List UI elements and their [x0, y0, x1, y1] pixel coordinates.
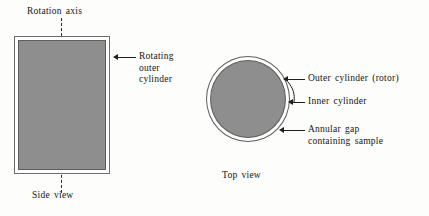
leader-line-rotating-outer-cylinder: [118, 57, 136, 58]
annular-gap-label: Annular gap containing sample: [308, 124, 383, 147]
inner-cylinder-label: Inner cylinder: [308, 96, 367, 108]
side-view-sample-fill: [18, 40, 106, 170]
top-view-caption: Top view: [222, 170, 261, 182]
leader-line-outer-cylinder: [288, 79, 305, 80]
outer-cylinder-rotor-label: Outer cylinder (rotor): [308, 73, 399, 85]
top-view-inner-cylinder: [210, 60, 286, 138]
rotating-outer-cylinder-label: Rotating outer cylinder: [139, 51, 174, 86]
top-view-outer-cylinder: [206, 56, 290, 142]
side-view-caption: Side view: [32, 190, 73, 202]
rotation-axis-label: Rotation axis: [27, 6, 82, 18]
leader-line-inner-cylinder: [293, 102, 305, 103]
leader-line-annular-gap: [284, 130, 305, 131]
couette-viscometer-diagram: Rotation axis Rotating outer cylinder Si…: [0, 0, 429, 216]
side-view-outer-cylinder: [14, 36, 110, 174]
